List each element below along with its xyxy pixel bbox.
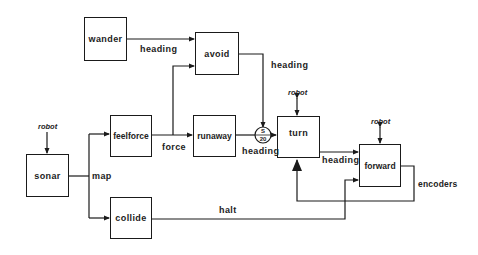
runaway-label: runaway — [197, 131, 232, 141]
turn-label: turn — [289, 128, 308, 138]
sonar-label: sonar — [34, 171, 61, 181]
avoid-to-suppressor-line — [239, 54, 263, 127]
runaway-heading-label: heading — [242, 146, 279, 156]
robot-forward-label: robot — [371, 117, 390, 126]
wander-module: wander — [84, 17, 127, 61]
encoders-label: encoders — [418, 179, 457, 189]
sonar-module: sonar — [26, 154, 69, 197]
suppressor-node: S 20 — [255, 127, 271, 143]
halt-label: halt — [219, 205, 237, 215]
force-to-avoid-line — [173, 66, 194, 135]
turn-module: turn — [277, 116, 320, 158]
force-label: force — [162, 142, 186, 152]
robot-turn-label: robot — [288, 88, 307, 97]
feelforce-module: feelforce — [110, 115, 152, 157]
suppressor-top-label: S — [261, 128, 265, 134]
encoders-arrowhead-icon — [292, 159, 302, 171]
forward-module: forward — [359, 144, 401, 187]
collide-module: collide — [110, 197, 152, 239]
suppressor-bottom-label: 20 — [260, 136, 267, 142]
avoid-module: avoid — [195, 32, 239, 75]
collide-label: collide — [115, 213, 146, 223]
robot-sonar-label: robot — [38, 122, 57, 131]
map-label: map — [92, 171, 112, 181]
feelforce-label: feelforce — [113, 131, 148, 141]
halt-line — [152, 180, 358, 219]
diagram-connections: S 20 — [0, 0, 478, 255]
wander-label: wander — [89, 34, 123, 44]
turn-heading-label: heading — [322, 155, 359, 165]
forward-label: forward — [364, 161, 395, 171]
avoid-label: avoid — [204, 49, 230, 59]
runaway-module: runaway — [193, 115, 236, 157]
avoid-heading-label: heading — [271, 60, 308, 70]
wander-heading-label: heading — [140, 44, 177, 54]
